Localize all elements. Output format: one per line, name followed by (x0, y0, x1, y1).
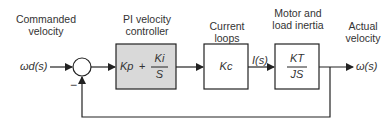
input-signal-label: ωd(s) (20, 60, 48, 72)
actual-velocity-label: Actual velocity (336, 20, 390, 44)
current-loops-label: Current loops (200, 20, 254, 44)
js-denominator: JS (275, 68, 319, 80)
plus-sign: + (139, 60, 145, 72)
ki-term: Ki (151, 52, 168, 64)
pi-controller-label: PI velocity controller (112, 13, 182, 37)
summing-junction (73, 58, 91, 76)
feedback-minus-sign: − (70, 78, 77, 92)
kc-gain: Kc (204, 60, 248, 72)
commanded-velocity-label: Commanded velocity (2, 13, 90, 37)
output-signal-label: ω(s) (356, 60, 377, 72)
motor-inertia-label: Motor and load inertia (268, 7, 328, 31)
s-term: S (151, 68, 168, 80)
kt-numerator: KT (275, 52, 319, 64)
kp-term: Kp (120, 60, 133, 72)
current-signal-label: I(s) (252, 54, 268, 66)
